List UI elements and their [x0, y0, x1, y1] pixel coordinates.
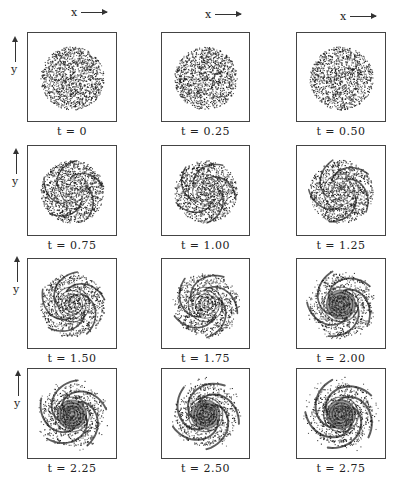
axis-line: [16, 152, 17, 174]
particle-disk-plot: [28, 369, 116, 458]
simulation-panel: [296, 368, 386, 459]
time-label: t = 2.00: [291, 352, 391, 365]
y-label: y: [13, 283, 19, 296]
time-label: t = 1.00: [156, 239, 256, 252]
time-label: t = 0.50: [291, 125, 391, 138]
time-label: t = 1.75: [156, 352, 256, 365]
axis-line: [15, 40, 16, 62]
simulation-panel: [296, 145, 386, 236]
simulation-panel: [27, 258, 117, 349]
particle-disk-plot: [162, 33, 249, 121]
particle-disk-plot: [297, 33, 385, 121]
x-label: x: [71, 6, 77, 19]
particle-disk-plot: [162, 369, 249, 458]
right-arrow-icon: [350, 16, 376, 17]
time-label: t = 0: [22, 125, 122, 138]
x-axis-label-col2: x: [205, 8, 241, 21]
particle-disk-plot: [297, 369, 385, 458]
particle-disk-plot: [297, 259, 385, 348]
simulation-panel: [27, 32, 117, 122]
y-label: y: [14, 397, 20, 410]
particle-disk-plot: [162, 146, 249, 235]
simulation-panel: [27, 368, 117, 459]
simulation-panel: [161, 145, 250, 236]
simulation-panel: [27, 145, 117, 236]
x-axis-label-col1: x: [71, 6, 107, 19]
axis-line: [18, 374, 19, 396]
simulation-panel: [161, 368, 250, 459]
x-label: x: [205, 8, 211, 21]
y-axis-label-row3: y: [13, 256, 23, 296]
axis-line: [17, 260, 18, 282]
simulation-panel: [161, 32, 250, 122]
y-axis-label-row2: y: [12, 148, 22, 188]
time-label: t = 1.50: [22, 352, 122, 365]
y-axis-label-row1: y: [11, 36, 21, 76]
simulation-panel: [161, 258, 250, 349]
particle-disk-plot: [28, 146, 116, 235]
right-arrow-icon: [81, 12, 107, 13]
simulation-panel: [296, 258, 386, 349]
simulation-panel: [296, 32, 386, 122]
particle-disk-plot: [162, 259, 249, 348]
time-label: t = 1.25: [291, 239, 391, 252]
y-label: y: [11, 63, 17, 76]
time-label: t = 0.25: [156, 125, 256, 138]
time-label: t = 2.75: [291, 462, 391, 475]
time-label: t = 2.25: [22, 462, 122, 475]
particle-disk-plot: [28, 259, 116, 348]
time-label: t = 2.50: [156, 462, 256, 475]
right-arrow-icon: [215, 14, 241, 15]
x-label: x: [340, 10, 346, 23]
y-axis-label-row4: y: [14, 370, 24, 410]
x-axis-label-col3: x: [340, 10, 376, 23]
time-label: t = 0.75: [22, 239, 122, 252]
particle-disk-plot: [28, 33, 116, 121]
y-label: y: [12, 175, 18, 188]
particle-disk-plot: [297, 146, 385, 235]
